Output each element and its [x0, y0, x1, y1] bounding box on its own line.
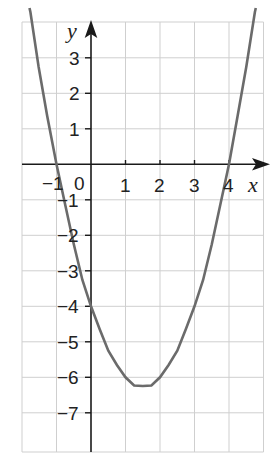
y-tick-label-neg4: −4 [57, 296, 79, 317]
y-axis-label: y [65, 18, 77, 43]
y-tick-label-neg1: −1 [57, 190, 79, 211]
y-tick-label-neg7: −7 [57, 403, 79, 424]
y-tick-label-1: 1 [69, 119, 80, 140]
y-tick-label-neg3: −3 [57, 261, 79, 282]
x-tick-label-2: 2 [154, 175, 165, 196]
graph-canvas: y x 3 2 1 0 −1 1 2 3 4 −1 −2 −3 −4 −5 −6… [0, 0, 276, 465]
y-tick-label-neg6: −6 [57, 367, 79, 388]
y-ticks [85, 58, 91, 413]
x-tick-label-4: 4 [223, 175, 234, 196]
x-tick-label-3: 3 [189, 175, 200, 196]
y-tick-label-2: 2 [69, 83, 80, 104]
x-tick-label-1: 1 [120, 175, 131, 196]
y-tick-label-3: 3 [69, 48, 80, 69]
y-tick-label-neg2: −2 [57, 225, 79, 246]
x-axis-label: x [247, 172, 258, 197]
y-tick-label-neg5: −5 [57, 332, 79, 353]
